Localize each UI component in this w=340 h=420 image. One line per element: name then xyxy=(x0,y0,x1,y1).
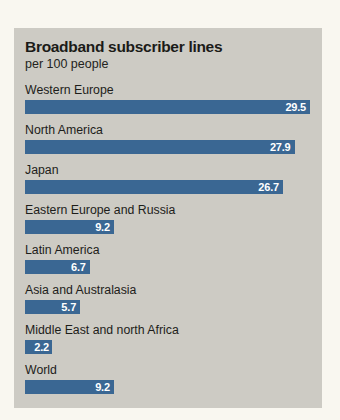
bar-row: World9.2 xyxy=(25,363,310,394)
bar-track: 26.7 xyxy=(25,180,310,194)
bar-value-label: 27.9 xyxy=(270,140,295,154)
bar: 2.2 xyxy=(25,340,52,354)
bar-track: 5.7 xyxy=(25,300,310,314)
bar-row: North America27.9 xyxy=(25,123,310,154)
bar-row: Eastern Europe and Russia9.2 xyxy=(25,203,310,234)
bar-category-label: Latin America xyxy=(25,243,310,258)
bar: 9.2 xyxy=(25,220,114,234)
bar-track: 29.5 xyxy=(25,100,310,114)
bar: 27.9 xyxy=(25,140,295,154)
bar-category-label: Asia and Australasia xyxy=(25,283,310,298)
bar: 9.2 xyxy=(25,380,114,394)
bar-track: 27.9 xyxy=(25,140,310,154)
chart-title: Broadband subscriber lines xyxy=(25,38,310,56)
bar-value-label: 6.7 xyxy=(71,260,90,274)
bar: 5.7 xyxy=(25,300,80,314)
bar-rows: Western Europe29.5North America27.9Japan… xyxy=(25,83,310,394)
bar-category-label: Western Europe xyxy=(25,83,310,98)
bar-value-label: 9.2 xyxy=(95,380,114,394)
bar-row: Asia and Australasia5.7 xyxy=(25,283,310,314)
chart-subtitle: per 100 people xyxy=(25,57,310,72)
bar-category-label: North America xyxy=(25,123,310,138)
bar-value-label: 5.7 xyxy=(61,300,80,314)
bar-row: Middle East and north Africa2.2 xyxy=(25,323,310,354)
chart-panel: Broadband subscriber lines per 100 peopl… xyxy=(14,28,322,408)
bar-track: 9.2 xyxy=(25,380,310,394)
bar-track: 9.2 xyxy=(25,220,310,234)
bar-value-label: 26.7 xyxy=(258,180,283,194)
bar-row: Western Europe29.5 xyxy=(25,83,310,114)
bar-track: 6.7 xyxy=(25,260,310,274)
bar-row: Japan26.7 xyxy=(25,163,310,194)
bar-row: Latin America6.7 xyxy=(25,243,310,274)
bar-value-label: 2.2 xyxy=(34,340,52,354)
bar-category-label: Eastern Europe and Russia xyxy=(25,203,310,218)
bar: 6.7 xyxy=(25,260,90,274)
bar: 29.5 xyxy=(25,100,310,114)
bar-category-label: Japan xyxy=(25,163,310,178)
bar-category-label: World xyxy=(25,363,310,378)
bar-value-label: 29.5 xyxy=(285,100,310,114)
bar-track: 2.2 xyxy=(25,340,310,354)
bar-category-label: Middle East and north Africa xyxy=(25,323,310,338)
bar-value-label: 9.2 xyxy=(95,220,114,234)
bar: 26.7 xyxy=(25,180,283,194)
